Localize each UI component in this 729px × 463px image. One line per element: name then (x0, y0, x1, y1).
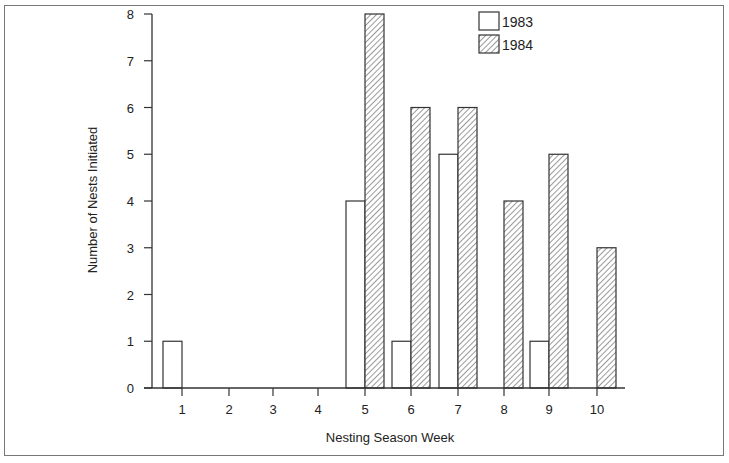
y-tick-label: 1 (127, 334, 134, 349)
legend: 19831984 (479, 12, 533, 53)
x-tick-label: 5 (361, 402, 368, 417)
y-tick-label: 3 (127, 241, 134, 256)
y-tick-label: 2 (127, 288, 134, 303)
bar-1984-week-5 (365, 14, 384, 388)
x-tick-label: 6 (407, 402, 414, 417)
x-tick-label: 10 (590, 402, 604, 417)
x-tick-label: 7 (454, 402, 461, 417)
y-tick-label: 4 (127, 194, 134, 209)
y-tick-label: 8 (127, 7, 134, 22)
y-tick-label: 7 (127, 54, 134, 69)
bar-1984-week-7 (458, 108, 477, 389)
y-tick-label: 6 (127, 101, 134, 116)
y-axis-label: Number of Nests Initiated (85, 127, 100, 274)
bar-1983-week-1 (163, 341, 182, 388)
x-axis-label: Nesting Season Week (326, 430, 454, 445)
x-tick-label: 2 (225, 402, 232, 417)
bar-1983-week-7 (439, 154, 458, 388)
bar-1983-week-6 (392, 341, 411, 388)
y-tick-label: 0 (127, 381, 134, 396)
legend-label-1984: 1984 (502, 37, 533, 53)
bars-group (163, 14, 616, 388)
legend-label-1983: 1983 (502, 14, 533, 30)
x-tick-label: 8 (500, 402, 507, 417)
bar-1984-week-9 (549, 154, 568, 388)
bar-1984-week-10 (597, 248, 616, 388)
bar-chart: 01234567812345678910 19831984 (0, 0, 729, 463)
x-tick-label: 1 (178, 402, 185, 417)
bar-1983-week-9 (530, 341, 549, 388)
legend-swatch-1983 (479, 12, 499, 30)
bar-1983-week-5 (346, 201, 365, 388)
bar-1984-week-6 (411, 108, 430, 389)
x-tick-label: 4 (314, 402, 321, 417)
y-tick-label: 5 (127, 147, 134, 162)
legend-swatch-1984 (479, 35, 499, 53)
x-tick-label: 9 (545, 402, 552, 417)
bar-1984-week-8 (504, 201, 523, 388)
x-tick-label: 3 (269, 402, 276, 417)
